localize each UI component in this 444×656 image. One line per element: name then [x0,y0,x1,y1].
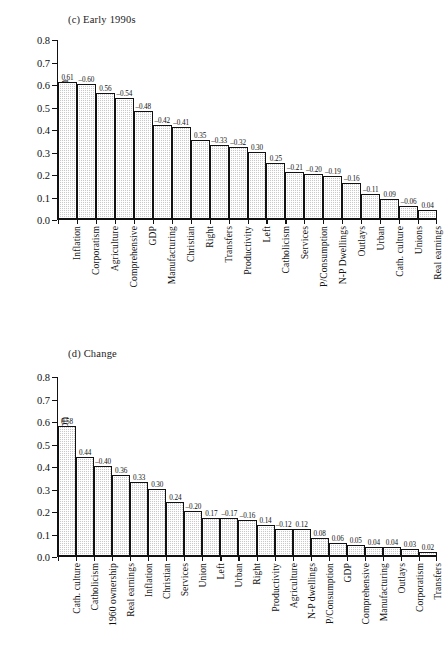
bar-value-label: 0.04 [421,202,433,210]
x-label-cell: Outlays [383,563,401,656]
x-tick-mark [202,557,220,561]
bar-slot: 0.61 [58,40,77,219]
panel-c-y-tick-mark [52,40,57,41]
bar: 0.33 [130,482,148,556]
x-label-cell: Urban [220,563,238,656]
panel-d-y-tick-label: 0.1 [37,529,50,540]
bar-value-label: 0.24 [169,494,181,502]
x-tick-mark [184,557,202,561]
bar-value-label: 0.33 [133,474,145,482]
bar-slot: 0.05 [347,377,365,556]
x-tick-mark [248,220,267,224]
x-label-cell: Right [191,226,210,326]
x-axis-category-label: Transfers [432,563,443,600]
bar-value-label: 0.58 [61,418,73,426]
panel-c-y-tick-mark [52,130,57,131]
x-tick-mark [323,220,342,224]
panel-c-y-tick-label: 0.5 [37,102,50,113]
bar: 0.02 [419,552,437,557]
bar-slot: 0.14 [257,377,275,556]
panel-c-y-tick-mark [52,63,57,64]
panel-d-y-tick-mark [52,400,57,401]
bar-slot: 0.56 [96,40,115,219]
figure-panel-c: (c) Early 1990s Correlation 0.00.10.20.3… [0,0,444,330]
bar: –0.06 [399,206,418,220]
panel-c-y-tick-label: 0.4 [37,125,50,136]
panel-d-y-tick-label: 0.3 [37,484,50,495]
x-label-cell: Outlays [342,226,361,326]
bar: –0.40 [94,466,112,556]
panel-c-y-tick-mark [52,175,57,176]
bar-value-label: –0.48 [135,103,151,111]
x-label-cell: Comprehensive [347,563,365,656]
x-tick-mark [401,557,419,561]
bar: 0.61 [58,82,77,219]
bar-slot: –0.16 [342,40,361,219]
bar-value-label: 0.14 [259,517,271,525]
bar-value-label: –0.20 [306,166,322,174]
bar-value-label: 0.30 [151,481,163,489]
bar-slot: 0.09 [380,40,399,219]
panel-d-y-tick-label: 0.6 [37,417,50,428]
x-tick-mark [311,557,329,561]
bar-slot: 0.25 [266,40,285,219]
panel-c-y-tick-label: 0.2 [37,170,50,181]
bar: –0.48 [134,111,153,219]
x-tick-mark [418,220,437,224]
panel-c-y-tick-label: 0.6 [37,80,50,91]
bar: –0.16 [238,520,256,556]
figure-panel-d: (d) Change Correlation 0.00.10.20.30.40.… [0,330,444,656]
bar-value-label: 0.08 [314,530,326,538]
panel-d-y-tick-mark [52,512,57,513]
bar-slot: –0.11 [361,40,380,219]
panel-d-y-tick-label: 0.7 [37,394,50,405]
bar: –0.54 [115,98,134,220]
bar: 0.56 [96,93,115,219]
x-tick-mark [285,220,304,224]
bar-value-label: 0.56 [99,85,111,93]
bar-slot: –0.16 [238,377,256,556]
x-tick-mark [266,220,285,224]
bar-slot: –0.21 [285,40,304,219]
x-tick-mark [229,220,248,224]
bar-slot: –0.19 [323,40,342,219]
bar-slot: –0.17 [220,377,238,556]
panel-d-y-tick-label: 0.0 [37,552,50,563]
x-label-cell: P/Consumption [304,226,323,326]
bar-value-label: –0.21 [287,164,303,172]
x-tick-mark [275,557,293,561]
bar-slot: 0.03 [401,377,419,556]
panel-d-x-labels: Cath. cultureCatholicism1960 ownershipRe… [58,563,437,656]
bar-value-label: –0.42 [154,117,170,125]
x-label-cell: Productivity [229,226,248,326]
bar-value-label: 0.05 [350,537,362,545]
bar-value-label: –0.16 [240,512,256,520]
bar-value-label: –0.16 [344,175,360,183]
bar-slot: 0.30 [248,40,267,219]
x-tick-mark [115,220,134,224]
panel-d-y-tick-label: 0.5 [37,439,50,450]
bar-slot: 0.04 [365,377,383,556]
panel-d-plot-area: Correlation 0.00.10.20.30.40.50.60.70.8 … [57,377,437,557]
bar-value-label: –0.06 [401,198,417,206]
bar-value-label: –0.17 [222,510,238,518]
x-label-cell: Left [248,226,267,326]
bar-value-label: 0.30 [251,144,263,152]
bar-value-label: –0.60 [79,76,95,84]
x-tick-mark [148,557,166,561]
bar-slot: 0.08 [311,377,329,556]
x-label-cell: Catholicism [266,226,285,326]
panel-d-title: (d) Change [68,348,117,359]
panel-d-y-tick-mark [52,377,57,378]
x-label-cell: Right [238,563,256,656]
x-axis-category-label: Real earnings [432,226,443,280]
bar-value-label: 0.04 [386,539,398,547]
bar-slot: 0.06 [329,377,347,556]
bar-slot: –0.42 [153,40,172,219]
panel-c-x-ticks [58,220,437,224]
bar: –0.21 [285,172,304,219]
panel-d-y-tick-mark [52,422,57,423]
bar-slot: 0.36 [112,377,130,556]
bar-slot: 0.35 [191,40,210,219]
x-label-cell: Christian [148,563,166,656]
